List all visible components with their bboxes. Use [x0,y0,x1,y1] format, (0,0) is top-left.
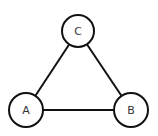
node-c-label: C [74,25,82,38]
node-c: C [62,15,94,47]
graph-diagram: C A B [0,0,158,136]
node-a: A [9,93,43,127]
node-b: B [114,93,148,127]
node-b-label: B [127,104,135,117]
node-a-label: A [22,104,30,117]
